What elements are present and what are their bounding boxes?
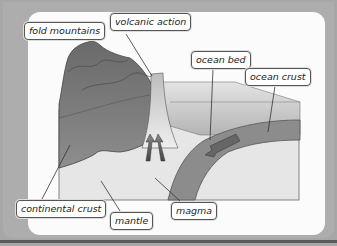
label-mantle: mantle bbox=[110, 212, 153, 230]
label-ocean-bed: ocean bed bbox=[191, 51, 251, 69]
label-continental-crust: continental crust bbox=[16, 200, 106, 218]
label-volcanic-action: volcanic action bbox=[110, 13, 191, 31]
label-magma: magma bbox=[171, 202, 217, 220]
label-fold-mountains: fold mountains bbox=[24, 22, 105, 40]
label-ocean-crust: ocean crust bbox=[245, 68, 311, 86]
